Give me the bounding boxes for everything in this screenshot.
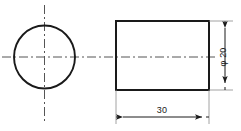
length-dimension-text: 30: [157, 105, 167, 115]
rectangle-side-view: [116, 21, 209, 90]
engineering-drawing-canvas: φ 20 30: [0, 0, 241, 131]
drawing-svg: φ 20 30: [0, 0, 241, 131]
extension-lines-group: [116, 21, 233, 124]
diameter-dimension-text: φ 20: [218, 47, 228, 66]
length-dimension: 30: [116, 105, 209, 117]
diameter-dimension: φ 20: [218, 21, 228, 90]
centerlines-group: [2, 5, 216, 122]
cylinder-outline-rectangle: [116, 21, 209, 90]
